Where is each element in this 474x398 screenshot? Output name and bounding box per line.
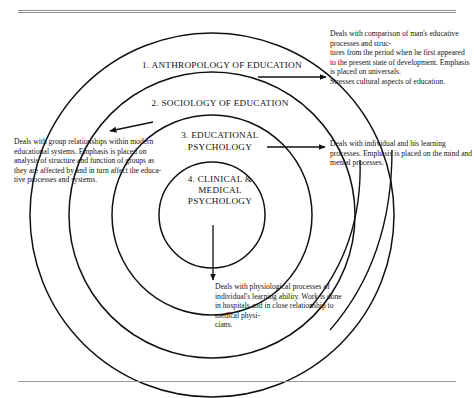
ring-label-sociology: 2. SOCIOLOGY OF EDUCATION: [105, 98, 335, 110]
description-clinical-medical-psychology: Deals with physiological processes of in…: [215, 282, 343, 330]
ring-label-clinical-medical-psychology: 4. CLINICAL & MEDICAL PSYCHOLOGY: [150, 174, 290, 207]
ring-circle-anthropology: [30, 33, 394, 397]
description-educational-psychology: Deals with individual and his learning p…: [330, 139, 473, 168]
description-anthropology: Deals with comparison of man's educative…: [330, 29, 472, 86]
figure-container: 1. ANTHROPOLOGY OF EDUCATION 2. SOCIOLOG…: [0, 0, 474, 398]
description-sociology: Deals with group relationships within mo…: [14, 137, 162, 185]
ring-label-anthropology: 1. ANTHROPOLOGY OF EDUCATION: [97, 60, 347, 72]
bottom-divider-rule: [18, 381, 456, 382]
